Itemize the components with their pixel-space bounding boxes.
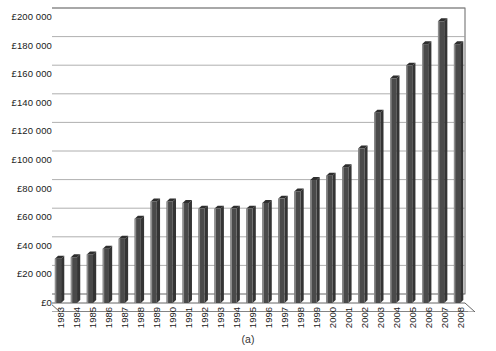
x-axis-tick-label: 1992: [200, 307, 210, 328]
bar: [151, 199, 160, 304]
bar-side-face: [396, 76, 399, 303]
x-axis-tick-label: 1985: [88, 307, 98, 328]
x-axis-tick-label: 1997: [280, 307, 290, 328]
bar: [326, 173, 335, 303]
plot-area: [52, 0, 496, 312]
bar: [294, 188, 303, 303]
bar-highlight: [342, 167, 344, 303]
x-axis-tick-label: 2007: [440, 307, 450, 328]
bar-highlight: [230, 209, 232, 303]
y-axis-tick-label: £40 000: [17, 241, 52, 251]
bar-highlight: [358, 149, 360, 303]
bar: [167, 199, 176, 304]
bar-highlight: [294, 191, 296, 303]
bar-side-face: [460, 41, 463, 303]
x-axis-tick-label: 2005: [408, 307, 418, 328]
bar-highlight: [310, 180, 312, 303]
x-axis-tick-label: 1995: [248, 307, 258, 328]
bar-highlight: [151, 201, 153, 303]
bar-side-face: [348, 164, 351, 303]
bar-side-face: [189, 200, 192, 303]
bar-highlight: [183, 203, 185, 303]
bar-side-face: [173, 199, 176, 304]
bar-side-face: [77, 254, 80, 303]
bar-highlight: [55, 259, 57, 303]
bar: [103, 246, 112, 303]
x-axis-tick-label: 1988: [136, 307, 146, 328]
x-axis-tick-label: 2001: [344, 307, 354, 328]
bar-highlight: [167, 201, 169, 303]
x-axis-tick-label: 2004: [392, 307, 402, 328]
y-axis-labels: £0£20 000£40 000£60 000£80 000£100 000£1…: [0, 0, 52, 312]
y-axis-tick-label: £140 000: [12, 98, 52, 108]
x-axis-tick-label: 1996: [264, 307, 274, 328]
bar: [310, 177, 319, 303]
x-axis-tick-label: 1983: [56, 307, 66, 328]
bar: [199, 206, 208, 303]
bar-side-face: [444, 18, 447, 303]
bar-highlight: [71, 257, 73, 303]
bar: [230, 206, 239, 303]
bar-side-face: [364, 146, 367, 303]
bar: [135, 216, 144, 303]
bar-highlight: [199, 209, 201, 303]
bar-side-face: [332, 173, 335, 303]
x-axis-tick-label: 1987: [120, 307, 130, 328]
x-axis-tick-label: 1994: [232, 307, 242, 328]
x-axis-tick-label: 1991: [184, 307, 194, 328]
bar-highlight: [390, 78, 392, 303]
bar: [342, 164, 351, 303]
y-axis-tick-label: £100 000: [12, 155, 52, 165]
y-axis-tick-label: £180 000: [12, 41, 52, 51]
bar: [71, 254, 80, 303]
bar: [406, 63, 415, 303]
bar-highlight: [278, 199, 280, 303]
x-axis-tick-label: 2000: [328, 307, 338, 328]
bar-highlight: [214, 209, 216, 303]
bar: [390, 76, 399, 303]
bar-highlight: [87, 254, 89, 303]
bar-highlight: [438, 21, 440, 303]
bar-side-face: [428, 41, 431, 303]
bar: [454, 41, 463, 303]
bar-side-face: [93, 251, 96, 303]
x-axis-tick-label: 2006: [424, 307, 434, 328]
x-axis-tick-label: 2002: [360, 307, 370, 328]
bar: [246, 206, 255, 303]
bar-side-face: [316, 177, 319, 303]
bar-side-face: [237, 206, 240, 303]
x-axis-tick-label: 1998: [296, 307, 306, 328]
bar-highlight: [135, 219, 137, 303]
bar: [374, 110, 383, 303]
y-axis-tick-label: £80 000: [17, 184, 52, 194]
bar: [119, 236, 128, 303]
bar: [278, 196, 287, 303]
bar-highlight: [326, 176, 328, 303]
bar-side-face: [380, 110, 383, 303]
x-axis-tick-label: 1990: [168, 307, 178, 328]
bar: [358, 146, 367, 303]
y-axis-tick-label: £200 000: [12, 12, 52, 22]
y-axis-tick-label: £120 000: [12, 126, 52, 136]
bar-side-face: [125, 236, 128, 303]
bar: [438, 18, 447, 303]
bar-side-face: [285, 196, 288, 303]
bar-highlight: [374, 113, 376, 303]
bar-side-face: [301, 188, 304, 303]
x-axis-tick-label: 1993: [216, 307, 226, 328]
bar-side-face: [221, 206, 224, 303]
bar: [183, 200, 192, 303]
bar-highlight: [262, 203, 264, 303]
bar-highlight: [406, 66, 408, 303]
bar: [262, 200, 271, 303]
x-axis-tick-label: 1986: [104, 307, 114, 328]
bar-side-face: [269, 200, 272, 303]
bar-side-face: [412, 63, 415, 303]
y-axis-tick-label: £20 000: [17, 269, 52, 279]
bar: [87, 251, 96, 303]
figure-panel: £0£20 000£40 000£60 000£80 000£100 000£1…: [0, 0, 496, 351]
x-axis-tick-label: 2003: [376, 307, 386, 328]
figure-caption: (a): [0, 333, 496, 345]
y-axis-tick-label: £60 000: [17, 212, 52, 222]
bar-highlight: [119, 239, 121, 303]
